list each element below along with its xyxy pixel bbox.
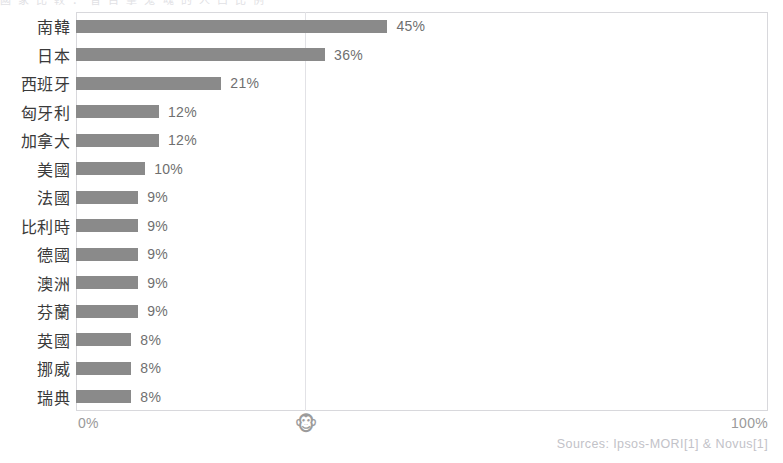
bar-category-label: 南韓	[0, 14, 70, 38]
bar-and-value: 12%	[76, 98, 197, 127]
bar-and-value: 9%	[76, 240, 168, 269]
bar-value-label: 9%	[147, 275, 168, 291]
bar-and-value: 45%	[76, 12, 425, 41]
bar-category-label: 西班牙	[0, 71, 70, 95]
bar	[76, 276, 138, 289]
bar-and-value: 9%	[76, 297, 168, 326]
bar-category-label: 德國	[0, 242, 70, 266]
bar-value-label: 9%	[147, 218, 168, 234]
bar-category-label: 澳洲	[0, 271, 70, 295]
bar-row: 法國9%	[0, 183, 783, 212]
bar-category-label: 日本	[0, 43, 70, 67]
bar-row: 美國10%	[0, 155, 783, 184]
clipped-header-text: 國 家 比 較 ： 曾 目 擊 鬼 魂 的 人 口 比 例	[0, 0, 783, 9]
bar-and-value: 10%	[76, 155, 183, 184]
bar	[76, 20, 387, 33]
bar	[76, 390, 131, 403]
bar-category-label: 加拿大	[0, 128, 70, 152]
bar-and-value: 8%	[76, 354, 161, 383]
bar	[76, 105, 159, 118]
source-note: Sources: Ipsos-MORI[1] & Novus[1]	[557, 437, 768, 451]
bar	[76, 134, 159, 147]
bar	[76, 362, 131, 375]
bar-rows-container: 南韓45%日本36%西班牙21%匈牙利12%加拿大12%美國10%法國9%比利時…	[0, 12, 783, 411]
axis-max-label: 100%	[731, 415, 768, 431]
bar-category-label: 美國	[0, 157, 70, 181]
bar-value-label: 8%	[140, 332, 161, 348]
bar-and-value: 9%	[76, 212, 168, 241]
bar-category-label: 瑞典	[0, 385, 70, 409]
bar-category-label: 法國	[0, 185, 70, 209]
bar-row: 英國8%	[0, 326, 783, 355]
bar	[76, 305, 138, 318]
bar-and-value: 9%	[76, 183, 168, 212]
bar-category-label: 比利時	[0, 214, 70, 238]
bar-row: 瑞典8%	[0, 383, 783, 412]
bar-category-label: 芬蘭	[0, 299, 70, 323]
bar-value-label: 9%	[147, 189, 168, 205]
bar-and-value: 8%	[76, 383, 161, 412]
bar	[76, 219, 138, 232]
bar-row: 芬蘭9%	[0, 297, 783, 326]
bar-value-label: 9%	[147, 303, 168, 319]
bar-value-label: 8%	[140, 360, 161, 376]
bar-value-label: 45%	[396, 18, 425, 34]
bar-and-value: 9%	[76, 269, 168, 298]
bar-row: 挪威8%	[0, 354, 783, 383]
bar-row: 加拿大12%	[0, 126, 783, 155]
bar-value-label: 8%	[140, 389, 161, 405]
bar-row: 日本36%	[0, 41, 783, 70]
bar-category-label: 英國	[0, 328, 70, 352]
bar-and-value: 8%	[76, 326, 161, 355]
monkey-face-icon: 🐵	[292, 412, 320, 436]
bar-category-label: 匈牙利	[0, 100, 70, 124]
bar-row: 德國9%	[0, 240, 783, 269]
bar-value-label: 36%	[334, 47, 363, 63]
bar-row: 澳洲9%	[0, 269, 783, 298]
bar-value-label: 21%	[230, 75, 259, 91]
bar-row: 西班牙21%	[0, 69, 783, 98]
bar-and-value: 12%	[76, 126, 197, 155]
bar	[76, 191, 138, 204]
bar	[76, 248, 138, 261]
bar	[76, 333, 131, 346]
bar-row: 比利時9%	[0, 212, 783, 241]
bar-value-label: 12%	[168, 104, 197, 120]
bar	[76, 77, 221, 90]
bar-row: 南韓45%	[0, 12, 783, 41]
bar	[76, 48, 325, 61]
bar-row: 匈牙利12%	[0, 98, 783, 127]
bar-value-label: 12%	[168, 132, 197, 148]
bar-and-value: 21%	[76, 69, 259, 98]
bar-value-label: 9%	[147, 246, 168, 262]
bar-value-label: 10%	[154, 161, 183, 177]
bar-category-label: 挪威	[0, 356, 70, 380]
axis-min-label: 0%	[78, 415, 99, 431]
bar-and-value: 36%	[76, 41, 363, 70]
bar	[76, 162, 145, 175]
